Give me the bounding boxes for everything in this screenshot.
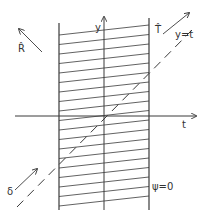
y-axis-label: y [95,22,101,33]
t-axis-label: t [182,119,186,130]
delta-vector-icon [15,169,37,190]
boundary-label: ψ=0 [152,181,173,192]
t-hat-label: T̂ [154,23,162,35]
diagonal-label: y=t [175,29,193,40]
delta-label: δ [7,186,13,197]
r-hat-label: R̂ [18,42,25,54]
spacetime-diagram: t y y=t ψ=0 R̂ T̂ δ [0,0,208,218]
